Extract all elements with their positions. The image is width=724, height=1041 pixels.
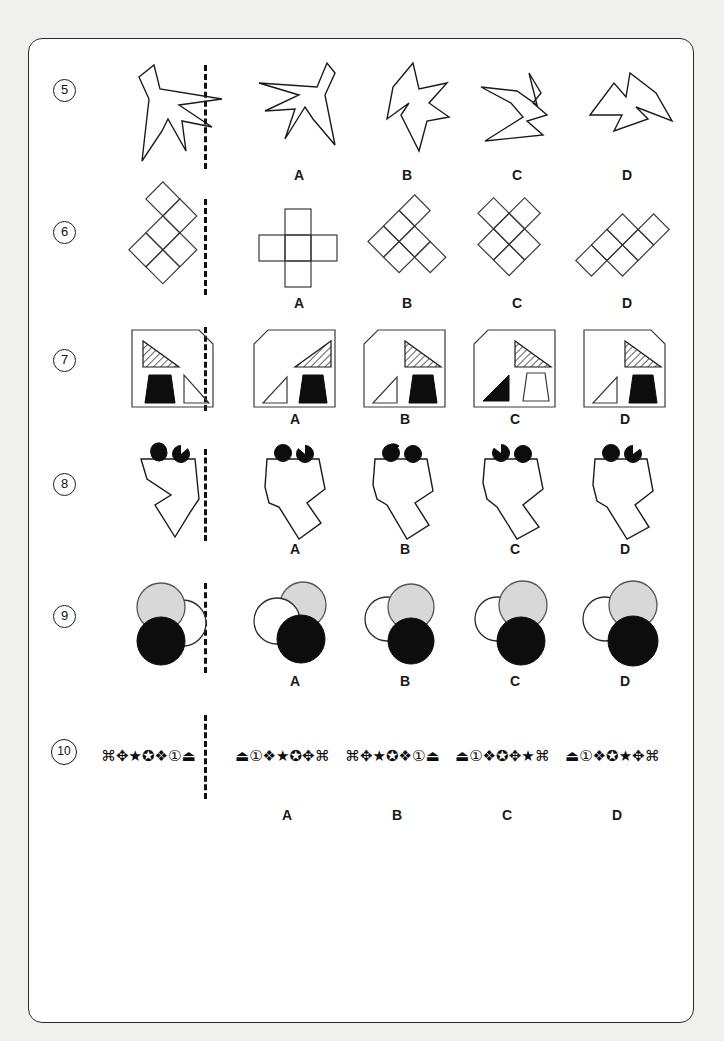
option-label-9-A: A bbox=[275, 673, 315, 689]
divider-10 bbox=[204, 715, 207, 799]
option-figure-7-C[interactable] bbox=[471, 327, 559, 411]
option-label-6-B: B bbox=[387, 295, 427, 311]
option-label-8-A: A bbox=[275, 541, 315, 557]
option-symbols-10-C[interactable]: ⏏①❖✪✥★⌘ bbox=[455, 749, 550, 764]
option-figure-6-D[interactable] bbox=[579, 197, 683, 293]
prompt-figure-5 bbox=[124, 59, 234, 169]
prompt-figure-9 bbox=[127, 579, 215, 671]
prompt-figure-6 bbox=[121, 197, 233, 299]
option-figure-7-D[interactable] bbox=[581, 327, 669, 411]
option-label-8-D: D bbox=[605, 541, 645, 557]
question-row-9: 9 bbox=[29, 565, 694, 695]
worksheet-sheet: 5 A B C bbox=[28, 38, 694, 1023]
option-figure-7-A[interactable] bbox=[251, 327, 339, 411]
option-figure-9-C[interactable] bbox=[471, 579, 559, 671]
option-label-6-A: A bbox=[279, 295, 319, 311]
option-figure-7-B[interactable] bbox=[361, 327, 449, 411]
option-label-5-D: D bbox=[607, 167, 647, 183]
question-row-6: 6 bbox=[29, 191, 694, 319]
option-figure-5-D[interactable] bbox=[574, 59, 679, 169]
question-number-6: 6 bbox=[53, 221, 76, 244]
option-figure-8-B[interactable] bbox=[361, 443, 447, 543]
question-number-7: 7 bbox=[53, 349, 76, 372]
option-figure-8-D[interactable] bbox=[581, 443, 667, 543]
option-label-9-D: D bbox=[605, 673, 645, 689]
option-figure-9-A[interactable] bbox=[251, 579, 339, 671]
question-number-8: 8 bbox=[53, 473, 76, 496]
question-row-5: 5 A B C bbox=[29, 59, 694, 189]
option-figure-6-A[interactable] bbox=[251, 199, 351, 295]
question-row-7: 7 bbox=[29, 321, 694, 433]
question-row-10: 10 ⌘✥★✪❖①⏏ ⏏①❖★✪✥⌘ ⌘✥★✪❖①⏏ ⏏①❖✪✥★⌘ ⏏①❖✪★… bbox=[29, 699, 694, 839]
option-figure-8-C[interactable] bbox=[471, 443, 557, 543]
option-figure-6-C[interactable] bbox=[469, 193, 569, 293]
option-label-7-A: A bbox=[275, 411, 315, 427]
option-figure-9-D[interactable] bbox=[581, 579, 669, 671]
option-label-7-B: B bbox=[385, 411, 425, 427]
option-label-10-A: A bbox=[267, 807, 307, 823]
option-figure-6-B[interactable] bbox=[359, 193, 459, 293]
option-figure-9-B[interactable] bbox=[361, 579, 449, 671]
option-label-10-D: D bbox=[597, 807, 637, 823]
prompt-figure-7 bbox=[129, 327, 217, 411]
question-number-5: 5 bbox=[53, 79, 76, 102]
prompt-symbols-10: ⌘✥★✪❖①⏏ bbox=[101, 749, 196, 764]
option-label-5-A: A bbox=[279, 167, 319, 183]
option-label-5-C: C bbox=[497, 167, 537, 183]
option-label-6-D: D bbox=[607, 295, 647, 311]
option-figure-5-A[interactable] bbox=[247, 59, 352, 169]
option-label-9-B: B bbox=[385, 673, 425, 689]
question-row-8: 8 bbox=[29, 435, 694, 563]
option-figure-8-A[interactable] bbox=[251, 443, 337, 543]
option-label-7-D: D bbox=[605, 411, 645, 427]
option-symbols-10-B[interactable]: ⌘✥★✪❖①⏏ bbox=[345, 749, 440, 764]
option-label-6-C: C bbox=[497, 295, 537, 311]
option-figure-5-C[interactable] bbox=[467, 59, 572, 169]
option-symbols-10-D[interactable]: ⏏①❖✪★✥⌘ bbox=[565, 749, 660, 764]
option-figure-5-B[interactable] bbox=[357, 59, 462, 169]
option-label-7-C: C bbox=[495, 411, 535, 427]
option-label-10-C: C bbox=[487, 807, 527, 823]
question-number-10: 10 bbox=[51, 739, 77, 765]
option-label-10-B: B bbox=[377, 807, 417, 823]
prompt-figure-8 bbox=[129, 443, 215, 543]
option-label-8-C: C bbox=[495, 541, 535, 557]
option-label-5-B: B bbox=[387, 167, 427, 183]
option-symbols-10-A[interactable]: ⏏①❖★✪✥⌘ bbox=[235, 749, 330, 764]
question-number-9: 9 bbox=[53, 605, 76, 628]
option-label-9-C: C bbox=[495, 673, 535, 689]
option-label-8-B: B bbox=[385, 541, 425, 557]
